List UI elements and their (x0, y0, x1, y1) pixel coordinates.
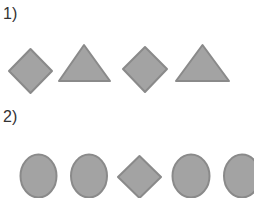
triangle-shape (176, 45, 229, 81)
triangle-shape (59, 45, 110, 81)
diamond-shape (123, 47, 167, 92)
diamond-shape (118, 156, 161, 198)
ellipse-shape (71, 155, 107, 198)
shapes-canvas (0, 0, 254, 198)
diamond-shape (9, 49, 52, 93)
ellipse-shape (224, 155, 254, 198)
ellipse-shape (21, 155, 57, 198)
ellipse-shape (173, 155, 210, 198)
